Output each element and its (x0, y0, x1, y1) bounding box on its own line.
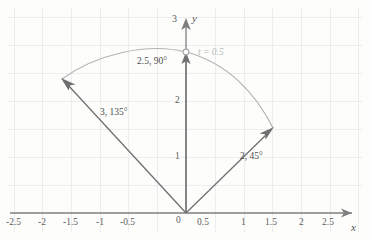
locus-arc (62, 49, 273, 128)
x-tick-label: 2 (299, 218, 304, 228)
x-tick-label: -2.5 (6, 218, 21, 228)
y-axis-max-label: 3 (172, 14, 177, 24)
origin-label: 0 (176, 216, 181, 226)
x-tick-label: 2.5 (322, 218, 334, 228)
x-tick-label: 0.5 (197, 218, 209, 228)
x-tick-label: -1.5 (63, 218, 78, 228)
polar-vector-diagram (0, 0, 372, 241)
x-tick-label: 1 (241, 218, 246, 228)
parameter-annotation: t = 0.5 (198, 48, 224, 58)
parameter-point-marker (183, 49, 189, 55)
y-tick-label: 2 (175, 96, 180, 106)
x-tick-label: -1 (96, 218, 104, 228)
vector-3-135 (61, 78, 186, 213)
y-tick-label: 1 (175, 152, 180, 162)
vector-label-2.5-90: 2.5, 90° (137, 57, 167, 67)
vector-2-45 (186, 127, 274, 213)
vector-2.5-90 (181, 52, 190, 213)
x-tick-label: 1.5 (265, 218, 277, 228)
x-axis-name: x (351, 222, 356, 233)
vector-label-2-45: 2, 45° (240, 152, 263, 162)
x-tick-label: -2 (38, 218, 46, 228)
y-axis-name: y (192, 13, 197, 24)
grid-lines (8, 8, 362, 232)
vector-label-3-135: 3, 135° (100, 108, 128, 118)
x-tick-label: -0.5 (120, 218, 135, 228)
